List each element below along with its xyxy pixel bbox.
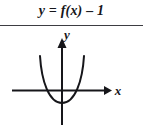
y-axis-label: y	[62, 27, 70, 42]
x-axis-arrowhead	[104, 86, 112, 95]
x-axis-label: x	[114, 83, 122, 98]
graph-svg: y x	[0, 26, 143, 133]
figure-panel: y = f(x) – 1 y x	[0, 0, 143, 133]
figure-title-row: y = f(x) – 1	[0, 0, 143, 26]
graph-figure: y x	[0, 26, 143, 133]
equation-label: y = f(x) – 1	[0, 3, 143, 19]
